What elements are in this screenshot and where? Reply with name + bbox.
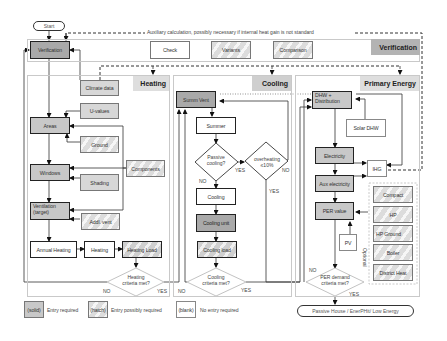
components-node[interactable]: Components [126,160,165,177]
ihg-node[interactable]: IHG [367,160,387,177]
optional-label: Optional [362,248,368,267]
electricity-node[interactable]: Electricity [315,147,354,164]
section-title-cooling: Cooling [252,76,291,91]
flowchart: Verification Heating Cooling Primary Ene… [0,0,447,341]
overheating-yes-label: YES [269,188,279,194]
section-title-primary-energy: Primary Energy [360,76,419,91]
variants-node[interactable]: Variants [211,41,251,59]
check-node[interactable]: Check [150,41,190,59]
optional-item-hp[interactable]: HP [373,206,413,223]
per-yes-label: YES [349,291,359,297]
cooling-panel [173,75,292,297]
cooling-node[interactable]: Cooling [196,188,236,205]
legend-solid-swatch: (solid) [24,301,44,318]
section-title-heating: Heating [133,76,169,91]
end-terminal: Passive House / EnerPHit/ Low Energy [297,305,414,317]
shading-node[interactable]: Shading [80,174,119,191]
windows-node[interactable]: Windows [30,164,70,181]
per-value-node[interactable]: PER value [315,202,354,220]
heating-yes-label: YES [157,288,167,294]
dhw-distribution-node[interactable]: DHW + Distribution [312,91,352,109]
addl-vent-node[interactable]: Addl. vent [81,213,120,230]
cooling-no-label: NO [178,288,186,294]
passive-yes-label: YES [235,167,245,173]
aux-electricity-node[interactable]: Aux electricity [315,175,354,192]
legend-blank-swatch: (blank) [176,301,196,318]
ground-node[interactable]: Ground [80,136,119,153]
start-terminal: Start [33,21,65,31]
passive-no-label: NO [199,178,207,184]
per-decision-label: PER demand criteria met? [312,274,358,286]
summer-node[interactable]: Summer [196,117,236,134]
summ-vent-node[interactable]: Summ Vent [176,91,216,108]
solar-dhw-node[interactable]: Solar DHW [346,119,386,137]
legend-hatch-text: Entry possibly required [111,307,162,313]
pv-node[interactable]: PV [339,234,357,251]
legend-blank-text: No entry required [200,307,239,313]
section-title-verification: Verification [371,39,420,55]
heating-decision-label: Heating criteria met? [115,274,157,286]
annual-heating-node[interactable]: Annual Heating [30,241,77,258]
cooling-decision-label: Cooling criteria met? [195,274,237,286]
heating-no-label: NO [103,288,111,294]
climate-data-node[interactable]: Climate data [80,80,119,96]
overheating-no-label: NO [282,167,290,173]
ventilation-label-line2: (target) [33,209,49,215]
optional-item-compact[interactable]: Compact [373,186,413,203]
heating-load-node[interactable]: Heating Load [122,241,162,258]
comparison-node[interactable]: Comparison [273,41,313,59]
u-values-node[interactable]: U-values [80,103,119,119]
optional-item-hp-ground[interactable]: HP Ground [373,225,413,242]
per-no-label: NO [309,267,317,273]
verification-node[interactable]: Verification [30,41,70,59]
ventilation-node[interactable]: Ventilation (target) [30,202,70,220]
auxiliary-annotation: Auxiliary calculation, possibly necessar… [146,29,315,35]
passive-cooling-label: Passive cooling? [199,154,233,166]
cooling-load-node[interactable]: Cooling load [197,241,237,258]
legend-hatch-swatch: (hatch) [88,301,108,318]
areas-node[interactable]: Areas [30,117,70,134]
optional-item-district-heat[interactable]: District Heat [373,264,413,281]
legend-solid-text: Entry required [47,307,78,313]
heating-node[interactable]: Heating [84,241,115,258]
cooling-unit-node[interactable]: Cooling unit [196,214,236,232]
cooling-yes-label: YES [241,287,251,293]
optional-item-boiler[interactable]: Boiler [373,244,413,261]
